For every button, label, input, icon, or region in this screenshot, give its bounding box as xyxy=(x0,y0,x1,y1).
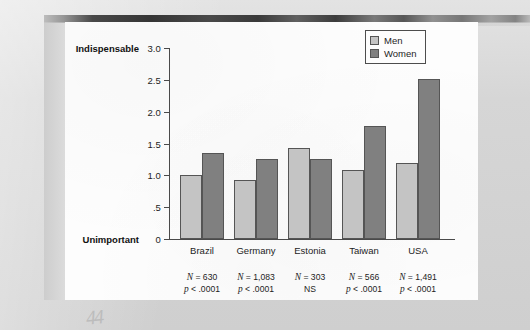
bar-women xyxy=(418,79,440,239)
chart-card: Men Women 0.51.01.52.02.53.0 Indispensab… xyxy=(65,22,478,300)
y-tick-label: .5 xyxy=(153,202,161,213)
page-left-margin xyxy=(44,23,66,300)
y-tick-mark xyxy=(164,175,169,176)
bar-women xyxy=(256,159,278,239)
bar-men xyxy=(234,180,256,239)
y-tick-mark xyxy=(164,80,169,81)
annotation-n: N = 1,491 xyxy=(382,272,454,284)
y-tick-label: 1.0 xyxy=(147,170,161,181)
bar-men xyxy=(288,148,310,239)
bar-women xyxy=(310,159,332,239)
bar-men xyxy=(342,170,364,239)
y-tick-label: 3.0 xyxy=(147,43,161,54)
y-axis-line xyxy=(169,48,170,240)
legend-swatch-men-icon xyxy=(370,36,379,45)
y-tick-label: 0 xyxy=(156,234,161,245)
legend-item-men: Men xyxy=(370,34,417,47)
y-tick-label: 2.0 xyxy=(147,106,161,117)
y-anchor-label-high: Indispensable xyxy=(76,43,139,54)
bar-women xyxy=(364,126,386,239)
y-tick-mark xyxy=(164,207,169,208)
x-category-label: USA xyxy=(384,245,452,256)
y-tick-mark xyxy=(164,239,169,240)
annotation-block: N = 1,491p < .0001 xyxy=(382,272,454,295)
y-tick-mark xyxy=(164,112,169,113)
y-tick-label: 1.5 xyxy=(147,138,161,149)
x-axis-line xyxy=(169,239,455,240)
y-tick-label: 2.5 xyxy=(147,74,161,85)
plot-area: 0.51.01.52.02.53.0 IndispensableUnimport… xyxy=(169,48,439,240)
handwritten-page-number: 44 xyxy=(85,305,103,330)
bar-women xyxy=(202,153,224,239)
y-tick-mark xyxy=(164,48,169,49)
annotation-p: p < .0001 xyxy=(382,284,454,296)
y-tick-mark xyxy=(164,144,169,145)
legend-label-men: Men xyxy=(384,35,402,46)
bar-men xyxy=(396,163,418,239)
y-anchor-label-low: Unimportant xyxy=(83,234,139,245)
bar-men xyxy=(180,175,202,239)
